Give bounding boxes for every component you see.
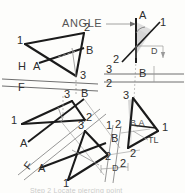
label-hv-point-a: A xyxy=(33,61,40,72)
label-hv-vertex-1: 1 xyxy=(17,35,23,46)
label-hv-point-b: B xyxy=(86,45,93,56)
label-hv-vertex-3: 3 xyxy=(80,70,86,81)
line-ab-horizontal-view xyxy=(39,48,84,63)
label-dim-d-top: D xyxy=(151,47,158,56)
label-aux2-vertex-3: 3 xyxy=(123,90,129,101)
label-aux1-point-b: B xyxy=(111,133,118,144)
label-angle-point-1: 1 xyxy=(160,17,166,28)
label-dim-d-bottom: D xyxy=(112,164,119,173)
label-true-length: TL xyxy=(148,136,159,145)
label-aux2-vertex-2: 2 xyxy=(130,148,136,159)
label-fold-1-bottom: 1 xyxy=(106,120,112,131)
label-fv-vertex-2: 2 xyxy=(86,112,92,123)
label-fold-2-bottom: 2 xyxy=(115,119,121,130)
label-aux2-point-ba: B,A xyxy=(130,119,145,128)
label-fold-f: F xyxy=(18,82,25,93)
label-angle-point-b: B xyxy=(139,68,146,79)
label-aux1-vertex-2: 2 xyxy=(105,151,111,162)
label-aux2-vertex-1: 1 xyxy=(162,122,168,133)
label-fv-point-b: B xyxy=(81,88,88,99)
drawing-canvas: 1 2 3 A B H F 1 2 3 A B F A 3 1 2 B 1 2 … xyxy=(0,0,185,193)
dim-arrowhead-d-top xyxy=(161,52,165,58)
label-fv-point-a: A xyxy=(20,138,27,149)
projector-vertical-right xyxy=(134,60,136,100)
tl-leader-line xyxy=(133,131,148,140)
label-fold-2-right: 2 xyxy=(106,78,112,89)
label-fv-vertex-3: 3 xyxy=(64,89,70,100)
label-fold-a-lower: A xyxy=(38,163,45,174)
label-fold-3-right: 3 xyxy=(106,64,112,75)
label-aux1-vertex-3: 3 xyxy=(78,120,84,131)
footer-caption: Step 2 Locate piercing point xyxy=(30,187,122,193)
label-angle-point-a: A xyxy=(139,10,146,21)
label-fold-2-bottom-b: 2 xyxy=(120,158,126,169)
label-angle-callout: ANGLE xyxy=(62,18,102,29)
label-fv-vertex-1: 1 xyxy=(11,115,17,126)
label-angle-point-2: 2 xyxy=(113,54,119,65)
label-fold-h: H xyxy=(18,61,26,72)
